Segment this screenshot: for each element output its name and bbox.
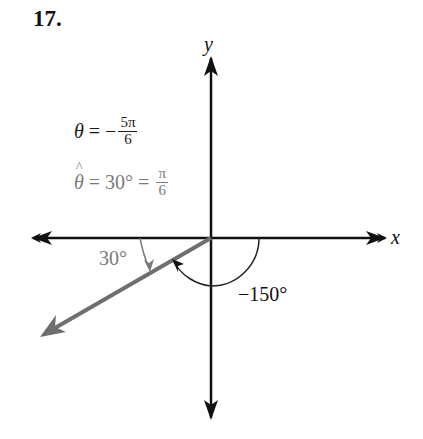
standard-angle-arrow-icon [172, 259, 184, 272]
y-axis-label: y [204, 33, 213, 56]
standard-angle-arc [174, 238, 259, 286]
standard-angle-label: −150° [238, 283, 287, 306]
coordinate-diagram [0, 0, 423, 439]
x-axis-label: x [391, 226, 400, 249]
terminal-ray [48, 238, 211, 332]
reference-angle-label: 30° [99, 247, 127, 270]
